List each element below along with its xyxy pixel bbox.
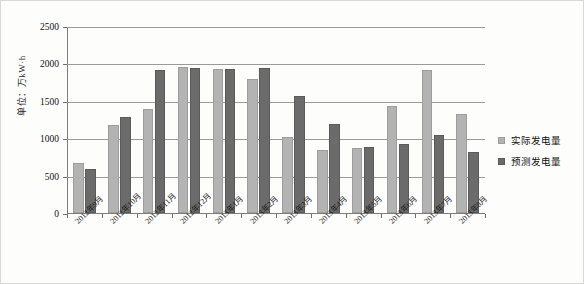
legend-swatch-forecast-icon <box>498 158 505 165</box>
bar-actual-10 <box>422 70 433 213</box>
x-axis-line <box>67 213 485 214</box>
y-axis-title: 单位：万kW·h <box>15 31 28 141</box>
y-tick-mark-2000 <box>63 64 67 65</box>
y-tick-mark-2500 <box>63 27 67 28</box>
x-tick-mark-10 <box>415 214 416 218</box>
bar-actual-3 <box>178 67 189 213</box>
y-tick-mark-500 <box>63 177 67 178</box>
legend: 实际发电量预测发电量 <box>498 133 580 175</box>
x-tick-mark-6 <box>276 214 277 218</box>
bar-actual-6 <box>282 137 293 213</box>
x-tick-mark-3 <box>172 214 173 218</box>
x-tick-mark-5 <box>241 214 242 218</box>
y-tick-label-1000: 1000 <box>15 134 59 144</box>
bar-actual-9 <box>387 106 398 213</box>
x-tick-mark-8 <box>346 214 347 218</box>
bar-actual-1 <box>108 125 119 213</box>
chart-figure: 单位：万kW·h 05001000150020002500 2012年9月201… <box>0 0 584 284</box>
y-tick-label-2000: 2000 <box>15 59 59 69</box>
y-tick-mark-1500 <box>63 102 67 103</box>
x-tick-mark-7 <box>311 214 312 218</box>
gridline-2000 <box>67 64 485 65</box>
x-tick-mark-2 <box>137 214 138 218</box>
y-tick-mark-1000 <box>63 139 67 140</box>
y-tick-label-500: 500 <box>15 172 59 182</box>
x-tick-mark-1 <box>102 214 103 218</box>
x-tick-mark-9 <box>381 214 382 218</box>
legend-item-forecast[interactable]: 预测发电量 <box>498 154 580 168</box>
bar-forecast-3 <box>190 68 201 213</box>
bar-actual-0 <box>73 163 84 213</box>
x-tick-mark-0 <box>67 214 68 218</box>
legend-item-actual[interactable]: 实际发电量 <box>498 133 580 147</box>
bar-actual-11 <box>456 114 467 213</box>
bar-forecast-2 <box>155 70 166 213</box>
x-tick-mark-end <box>485 214 486 218</box>
bar-actual-7 <box>317 150 328 213</box>
bar-actual-2 <box>143 109 154 213</box>
bar-forecast-4 <box>225 69 236 213</box>
bar-actual-4 <box>213 69 224 213</box>
x-tick-mark-11 <box>450 214 451 218</box>
bar-actual-5 <box>247 79 258 213</box>
bar-actual-8 <box>352 148 363 213</box>
legend-label-actual: 实际发电量 <box>511 133 561 147</box>
y-tick-label-2500: 2500 <box>15 22 59 32</box>
y-tick-mark-0 <box>63 214 67 215</box>
legend-label-forecast: 预测发电量 <box>511 154 561 168</box>
plot-area <box>67 27 485 214</box>
y-tick-label-1500: 1500 <box>15 97 59 107</box>
gridline-2500 <box>67 27 485 28</box>
legend-swatch-actual-icon <box>498 137 505 144</box>
bar-forecast-5 <box>259 68 270 213</box>
x-tick-mark-4 <box>206 214 207 218</box>
y-tick-label-0: 0 <box>15 209 59 219</box>
